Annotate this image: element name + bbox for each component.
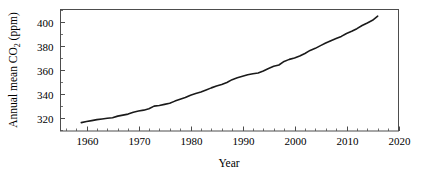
y-tick-label: 360 bbox=[37, 65, 54, 77]
y-tick-label: 320 bbox=[37, 113, 54, 125]
y-tick-label: 340 bbox=[37, 89, 54, 101]
x-axis-title: Year bbox=[218, 157, 239, 169]
x-tick-label: 1960 bbox=[77, 135, 100, 147]
chart-figure: 1960197019801990200020102020 32034036038… bbox=[0, 0, 424, 174]
y-tick-label: 380 bbox=[37, 41, 54, 53]
y-axis-title-pre: Annual mean CO bbox=[7, 47, 19, 127]
x-tick-label: 1990 bbox=[233, 135, 256, 147]
y-axis-title-post: (ppm) bbox=[7, 12, 20, 43]
x-tick-label: 1970 bbox=[129, 135, 152, 147]
x-tick-label: 2000 bbox=[285, 135, 308, 147]
y-tick-label: 400 bbox=[37, 17, 54, 29]
x-tick-label: 1980 bbox=[181, 135, 204, 147]
keeling-curve-chart: 1960197019801990200020102020 32034036038… bbox=[0, 0, 424, 174]
x-tick-label: 2020 bbox=[389, 135, 412, 147]
x-tick-label: 2010 bbox=[337, 135, 360, 147]
